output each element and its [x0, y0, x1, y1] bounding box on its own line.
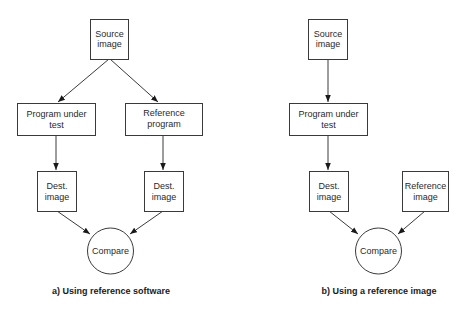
svg-text:Source: Source	[95, 29, 124, 39]
edge-dest1-to-compare	[57, 211, 90, 234]
node-reference-image: Reference image	[403, 172, 449, 212]
svg-text:image: image	[45, 192, 70, 202]
edge-source-to-reference-program	[110, 59, 158, 102]
svg-text:Program under: Program under	[26, 109, 86, 119]
node-source-image: Source image	[309, 20, 348, 60]
edge-dest2-to-compare	[130, 211, 163, 234]
node-dest-image: Dest. image	[310, 172, 349, 212]
svg-text:Reference: Reference	[143, 108, 185, 118]
edge-dest-to-compare	[329, 211, 358, 234]
svg-text:image: image	[316, 39, 341, 49]
svg-text:image: image	[152, 192, 177, 202]
svg-text:Compare: Compare	[360, 246, 397, 256]
node-reference-program: Reference program	[126, 104, 203, 136]
svg-text:image: image	[317, 192, 342, 202]
svg-text:Dest.: Dest.	[318, 181, 339, 191]
node-dest-image-1: Dest. image	[38, 172, 77, 212]
svg-text:Program under: Program under	[298, 109, 358, 119]
edge-reference-image-to-compare	[398, 211, 425, 234]
flow-diagrams: Source image Program under test Referenc…	[0, 0, 465, 310]
caption-a: a) Using reference software	[52, 286, 170, 296]
svg-text:Compare: Compare	[92, 246, 129, 256]
svg-text:Reference: Reference	[405, 181, 447, 191]
svg-text:test: test	[49, 120, 64, 130]
svg-text:image: image	[413, 192, 438, 202]
svg-text:Dest.: Dest.	[46, 181, 67, 191]
svg-text:program: program	[147, 119, 181, 129]
node-source-image: Source image	[91, 20, 129, 60]
node-program-under-test: Program under test	[290, 104, 368, 136]
node-dest-image-2: Dest. image	[145, 172, 184, 212]
svg-text:image: image	[97, 39, 122, 49]
svg-text:test: test	[321, 120, 336, 130]
svg-text:Source: Source	[314, 29, 343, 39]
diagram-a: Source image Program under test Referenc…	[18, 20, 203, 297]
caption-b: b) Using a reference image	[321, 286, 436, 296]
node-compare: Compare	[356, 228, 402, 274]
svg-text:Dest.: Dest.	[153, 181, 174, 191]
node-program-under-test: Program under test	[18, 104, 96, 136]
node-compare: Compare	[88, 228, 134, 274]
diagram-b: Source image Program under test Dest. im…	[290, 20, 449, 297]
edge-source-to-program	[58, 59, 109, 102]
